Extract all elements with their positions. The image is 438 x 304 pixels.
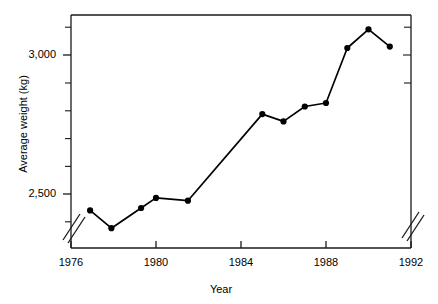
data-markers — [87, 26, 393, 231]
data-point — [302, 103, 308, 109]
data-point — [108, 225, 114, 231]
data-point — [344, 45, 350, 51]
x-tick-label-1976: 1976 — [51, 256, 91, 268]
data-point — [259, 111, 265, 117]
data-point — [153, 195, 159, 201]
x-major-ticks — [71, 241, 411, 248]
x-tick-label-1984: 1984 — [221, 256, 261, 268]
x-tick-label-1992: 1992 — [391, 256, 431, 268]
x-axis-break-icon — [402, 212, 424, 241]
data-point — [365, 26, 371, 32]
y-axis-break-icon — [63, 214, 85, 243]
data-point — [323, 100, 329, 106]
x-tick-label-1988: 1988 — [306, 256, 346, 268]
axis-frame — [71, 15, 411, 248]
data-point — [138, 205, 144, 211]
y-major-ticks — [63, 55, 71, 194]
y-axis-title: Average weight (kg) — [17, 54, 29, 194]
x-axis-title: Year — [171, 283, 271, 295]
data-point — [87, 207, 93, 213]
data-point — [280, 118, 286, 124]
y-minor-ticks — [65, 27, 71, 222]
data-point — [185, 198, 191, 204]
chart-figure: 3,000 2,500 1976 1980 1984 1988 1992 Ave… — [0, 0, 438, 304]
x-tick-label-1980: 1980 — [136, 256, 176, 268]
data-point — [387, 44, 393, 50]
data-line — [90, 29, 390, 228]
y-right-ticks — [403, 27, 411, 83]
